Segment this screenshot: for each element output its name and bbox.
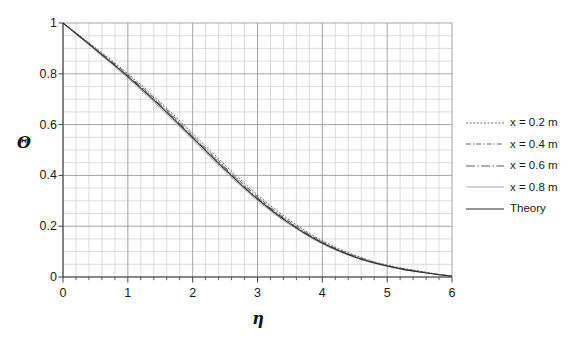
legend-item-3[interactable]: x = 0.6 m [466, 155, 582, 177]
x-tick-label: 6 [449, 287, 456, 300]
legend-item-label: x = 0.8 m [510, 182, 558, 194]
y-axis-title: Θ [17, 133, 31, 152]
x-tick-label: 5 [384, 287, 391, 300]
x-tick-label: 4 [319, 287, 326, 300]
legend-line-sample-icon [466, 160, 504, 172]
x-tick-label: 2 [189, 287, 196, 300]
legend-item-2[interactable]: x = 0.4 m [466, 134, 582, 156]
legend-line-sample-icon [466, 117, 504, 129]
chart-figure: 00.20.40.60.81 0123456 Θ η x = 0.2 mx = … [0, 0, 584, 341]
legend-line-sample-icon [466, 138, 504, 150]
legend-line-sample-icon [466, 181, 504, 193]
x-axis-title: η [252, 309, 264, 328]
x-tick-label: 1 [124, 287, 131, 300]
x-tick-label: 3 [254, 287, 261, 300]
legend-item-label: x = 0.2 m [510, 117, 558, 129]
legend-item-label: x = 0.6 m [510, 160, 558, 172]
legend-item-5[interactable]: Theory [466, 198, 582, 220]
legend-item-4[interactable]: x = 0.8 m [466, 177, 582, 199]
x-tick-label: 0 [60, 287, 67, 300]
legend-item-label: x = 0.4 m [510, 139, 558, 151]
legend-item-1[interactable]: x = 0.2 m [466, 112, 582, 134]
chart-legend: x = 0.2 mx = 0.4 mx = 0.6 mx = 0.8 mTheo… [466, 112, 582, 220]
legend-line-sample-icon [466, 203, 504, 215]
legend-item-label: Theory [510, 203, 546, 215]
